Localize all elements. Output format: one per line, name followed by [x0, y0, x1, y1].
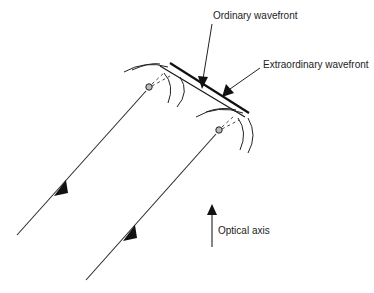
extraordinary-wavefront-label: Extraordinary wavefront: [263, 59, 369, 71]
optical-axis-label: Optical axis: [218, 225, 270, 237]
ray-arrow-icon: [54, 180, 68, 196]
leader-arrow-icon: [222, 84, 234, 97]
up-arrow-icon: [207, 204, 217, 215]
ray-arrow-icon: [123, 225, 137, 241]
incident-ray-2: [86, 134, 216, 280]
ordinary-wavefront-label: Ordinary wavefront: [213, 10, 297, 22]
optical-axis-arrow: [207, 204, 217, 247]
birefringence-diagram: [0, 0, 374, 293]
incident-ray-1: [17, 91, 146, 235]
extraordinary-wavefront-line: [170, 63, 249, 113]
ordinary-leader: [198, 24, 212, 89]
secondary-source-1: [124, 64, 184, 107]
extraordinary-leader: [222, 68, 260, 97]
